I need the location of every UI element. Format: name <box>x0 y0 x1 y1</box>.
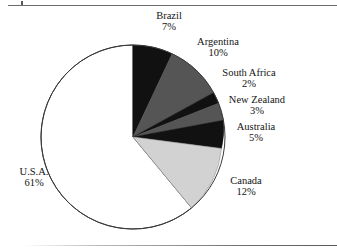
pie-label-brazil-value: 7% <box>141 22 197 33</box>
pie-label-south-africa: South Africa 2% <box>207 68 291 90</box>
pie-label-brazil: Brazil 7% <box>141 11 197 33</box>
pie-label-canada: Canada 12% <box>215 176 277 198</box>
pie-chart-figure: Brazil 7% Argentina 10% South Africa 2% … <box>0 0 337 252</box>
pie-label-usa-name: U.S.A. <box>20 166 49 177</box>
pie-label-argentina-name: Argentina <box>197 36 239 47</box>
pie-label-australia-name: Australia <box>237 121 276 132</box>
pie-label-usa: U.S.A. 61% <box>8 167 60 189</box>
pie-label-new-zealand-value: 3% <box>215 106 299 117</box>
pie-label-new-zealand-name: New Zealand <box>229 94 285 105</box>
pie-label-usa-value: 61% <box>8 178 60 189</box>
pie-label-south-africa-value: 2% <box>207 79 291 90</box>
pie-label-argentina: Argentina 10% <box>185 37 251 59</box>
pie-label-australia-value: 5% <box>219 133 293 144</box>
pie-label-brazil-name: Brazil <box>156 10 182 21</box>
pie-label-canada-name: Canada <box>230 175 262 186</box>
pie-label-new-zealand: New Zealand 3% <box>215 95 299 117</box>
bottom-horizontal-rule <box>24 245 337 246</box>
pie-label-canada-value: 12% <box>215 187 277 198</box>
pie-label-south-africa-name: South Africa <box>222 67 275 78</box>
pie-label-australia: Australia 5% <box>219 122 293 144</box>
pie-label-argentina-value: 10% <box>185 48 251 59</box>
